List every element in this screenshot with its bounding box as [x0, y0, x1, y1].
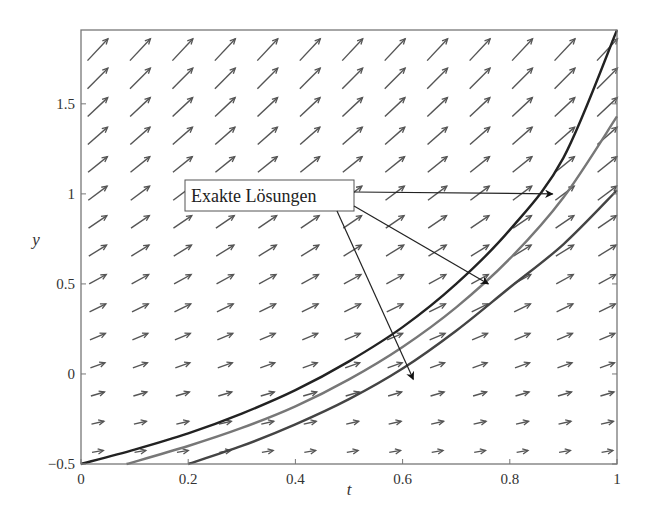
annotation-arrow [354, 206, 488, 284]
x-tick-label: 0.4 [286, 471, 305, 487]
x-tick-label: 0 [77, 471, 85, 487]
x-tick-label: 0.2 [179, 471, 198, 487]
annotation-arrow [337, 211, 413, 379]
axis-ticks: 00.20.40.60.81−0.500.511.5 [48, 96, 621, 487]
solution-curve [127, 116, 617, 464]
y-tick-label: 0 [68, 366, 76, 382]
solution-curves [81, 30, 617, 464]
annotation-text: Exakte Lösungen [191, 186, 316, 206]
y-tick-label: 1 [68, 186, 76, 202]
direction-field-chart: 00.20.40.60.81−0.500.511.5 t y Exakte Lö… [0, 0, 652, 521]
y-axis-label: y [30, 230, 40, 249]
x-tick-label: 1 [613, 471, 621, 487]
x-tick-label: 0.6 [393, 471, 412, 487]
y-tick-label: 1.5 [56, 96, 75, 112]
y-tick-label: 0.5 [56, 276, 75, 292]
y-tick-label: −0.5 [48, 456, 75, 472]
x-axis-label: t [347, 480, 353, 499]
x-tick-label: 0.8 [500, 471, 519, 487]
